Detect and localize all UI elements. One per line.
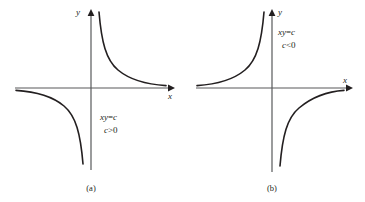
equation-rhs: c	[291, 27, 295, 37]
condition-rhs: 0	[113, 125, 118, 135]
curve-branch-quadrant-iii	[16, 90, 83, 164]
y-axis-arrowhead	[88, 9, 95, 16]
x-axis-arrowhead	[346, 85, 353, 92]
x-axis-label: x	[343, 76, 347, 85]
y-axis-label: y	[278, 8, 282, 17]
panel-a: y x xy=c c>0 (a)	[0, 0, 182, 202]
equation-rhs: c	[113, 112, 117, 122]
curve-branch-quadrant-iv	[280, 90, 344, 166]
x-axis-label: x	[168, 92, 172, 101]
y-axis-label: y	[76, 8, 80, 17]
condition-line-2: c<0	[278, 39, 296, 52]
hyperbola-family-figure: y x xy=c c>0 (a) y x xy=c c<0	[0, 0, 365, 202]
y-axis-arrowhead	[269, 9, 276, 16]
condition-rhs: 0	[291, 40, 296, 50]
curve-branch-quadrant-ii	[197, 12, 264, 86]
equation-lhs: xy	[100, 112, 108, 122]
condition-line-2: c>0	[100, 124, 118, 137]
panel-b: y x xy=c c<0 (b)	[183, 0, 365, 202]
panel-b-caption: (b)	[252, 184, 292, 193]
panel-b-plot	[183, 0, 365, 202]
curve-branch-quadrant-i	[99, 12, 166, 86]
equation-lhs: xy	[278, 27, 286, 37]
panel-a-caption: (a)	[71, 184, 111, 193]
panel-a-plot	[0, 0, 182, 202]
equation-line-1: xy=c	[278, 26, 296, 39]
equation-annotation: xy=c c>0	[100, 111, 118, 137]
equation-line-1: xy=c	[100, 111, 118, 124]
equation-annotation: xy=c c<0	[278, 26, 296, 52]
